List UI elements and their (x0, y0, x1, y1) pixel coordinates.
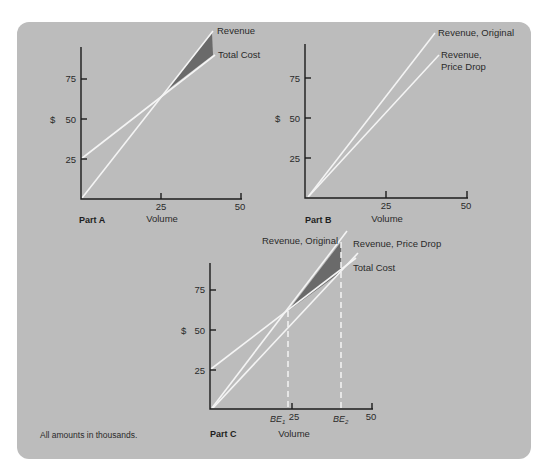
y-axis-label: $ (181, 325, 187, 336)
chart-part-c: 75 50 25 $ 25 50 BE1 BE2 Volume Part C R… (181, 231, 441, 439)
y-axis-label: $ (50, 114, 56, 125)
part-title: Part C (210, 429, 237, 439)
x-tick-label: 50 (461, 200, 472, 211)
x-axis-label: Volume (278, 428, 310, 439)
y-tick-label: 75 (65, 73, 76, 84)
revenue-price-drop-line (213, 253, 358, 408)
total-cost-line (81, 55, 215, 159)
revenue-original-line (212, 231, 347, 408)
x-axis-label: Volume (146, 213, 178, 224)
y-tick-label: 25 (289, 153, 300, 164)
break-even-figure: 75 50 25 $ 25 50 Volume Part A Revenue T… (0, 0, 548, 476)
chart-part-a: 75 50 25 $ 25 50 Volume Part A Revenue T… (50, 25, 261, 225)
y-tick-label: 25 (194, 365, 205, 376)
legend-revenue-price-drop: Price Drop (441, 61, 486, 72)
x-tick-label: 50 (235, 201, 246, 212)
be2-label: BE2 (333, 414, 349, 425)
legend-revenue-original: Revenue, Original (262, 235, 338, 246)
revenue-price-drop-line (309, 55, 439, 196)
axes (81, 47, 242, 199)
y-tick-label: 25 (65, 154, 76, 165)
y-axis-label: $ (275, 113, 281, 124)
x-tick-label: 25 (381, 200, 392, 211)
part-title: Part A (79, 215, 106, 225)
x-tick-label: 50 (366, 411, 377, 422)
x-axis-label: Volume (371, 213, 403, 224)
chart-part-b: 75 50 25 $ 25 50 Volume Part B Revenue, … (275, 27, 514, 225)
legend-revenue-price-drop: Revenue, (441, 49, 482, 60)
x-tick-label: 25 (156, 201, 167, 212)
be1-label: BE1 (270, 414, 285, 425)
legend-total-cost: Total Cost (218, 49, 261, 60)
revenue-line (82, 31, 213, 198)
y-tick-label: 50 (289, 113, 300, 124)
footnote: All amounts in thousands. (40, 430, 137, 440)
legend-revenue-original: Revenue, Original (438, 27, 514, 38)
y-tick-label: 75 (194, 284, 205, 295)
y-tick-label: 50 (194, 325, 205, 336)
axes (210, 263, 373, 409)
legend-revenue: Revenue (217, 25, 255, 36)
y-tick-label: 75 (289, 73, 300, 84)
part-title: Part B (305, 215, 332, 225)
legend-revenue-price-drop: Revenue, Price Drop (353, 238, 441, 249)
x-tick-label: 25 (289, 411, 300, 422)
revenue-original-line (308, 33, 435, 197)
legend-total-cost: Total Cost (353, 262, 396, 273)
y-tick-label: 50 (65, 114, 76, 125)
